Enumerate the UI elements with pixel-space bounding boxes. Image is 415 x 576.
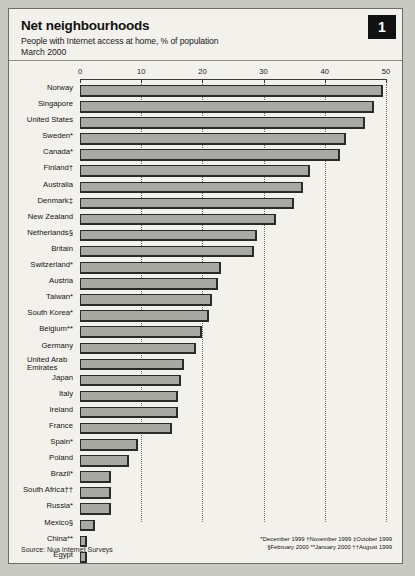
bar-row: Austria	[80, 277, 386, 293]
bar-row: Canada*	[80, 148, 386, 164]
bar-row: Mexico§	[80, 519, 386, 535]
bar-category-label: Sweden*	[42, 132, 73, 140]
bar-row: South Korea*	[80, 309, 386, 325]
bar-category-label: South Korea*	[27, 309, 73, 317]
x-axis-tick-label: 0	[78, 67, 82, 76]
bar-category-label: Poland	[49, 454, 73, 462]
x-axis-tick-label: 30	[259, 67, 267, 76]
bar	[80, 262, 221, 274]
bar-category-label: Australia	[43, 181, 73, 189]
bar-row: Japan	[80, 374, 386, 390]
bar-category-label: Russia*	[47, 502, 74, 510]
bar-row: New Zealand	[80, 213, 386, 229]
bar-category-label: Norway	[47, 84, 73, 92]
bar-row: South Africa††	[80, 486, 386, 502]
bar-category-label: France	[49, 422, 73, 430]
bar	[80, 278, 218, 290]
bar-row: United States	[80, 116, 386, 132]
bar	[80, 375, 181, 387]
x-axis-tick-label: 20	[198, 67, 206, 76]
x-axis-tick	[386, 79, 387, 83]
bar	[80, 214, 276, 226]
bar-row: United Arab Emirates	[80, 358, 386, 374]
bar-list: NorwaySingaporeUnited StatesSweden*Canad…	[80, 84, 386, 564]
chart-subtitle: People with Internet access at home, % o…	[21, 36, 218, 46]
x-axis-tick-label: 10	[137, 67, 145, 76]
bar-category-label: New Zealand	[28, 213, 73, 221]
bar-category-label: Canada*	[43, 148, 73, 156]
bar-category-label: Switzerland*	[30, 261, 73, 269]
bar-category-label: Taiwan*	[46, 293, 73, 301]
x-axis-tick	[325, 79, 326, 83]
bar-category-label: Mexico§	[44, 519, 73, 527]
bar	[80, 520, 95, 532]
bar-row: Netherlands§	[80, 229, 386, 245]
bar-category-label: Britain	[51, 245, 73, 253]
bar	[80, 391, 178, 403]
bar-category-label: Italy	[59, 390, 73, 398]
bar-category-label: Netherlands§	[27, 229, 73, 237]
bar	[80, 117, 365, 129]
gridline	[386, 84, 387, 522]
bar	[80, 310, 209, 322]
bar	[80, 487, 111, 499]
bar-row: Australia	[80, 181, 386, 197]
bar-category-label: Japan	[52, 374, 73, 382]
bar	[80, 101, 374, 113]
bar-category-label: Brazil*	[51, 470, 73, 478]
bar-category-label: Ireland	[49, 406, 73, 414]
figure-number-badge: 1	[368, 15, 396, 39]
bar	[80, 552, 87, 564]
bar-row: Denmark‡	[80, 197, 386, 213]
bar-row: Italy	[80, 390, 386, 406]
bar-category-label: Denmark‡	[38, 197, 73, 205]
bar	[80, 326, 202, 338]
header-divider	[9, 60, 402, 61]
bar-category-label: South Africa††	[23, 486, 73, 494]
bar-row: Spain*	[80, 438, 386, 454]
bar	[80, 165, 310, 177]
bar	[80, 503, 111, 515]
bar-row: Russia*	[80, 502, 386, 518]
bar	[80, 198, 294, 210]
bar	[80, 343, 196, 355]
bar-category-label: Spain*	[50, 438, 73, 446]
bar	[80, 471, 111, 483]
bar-row: Brazil*	[80, 470, 386, 486]
bar-row: Sweden*	[80, 132, 386, 148]
x-axis-tick	[141, 79, 142, 83]
bar-row: Egypt	[80, 551, 386, 564]
bar-row: Ireland	[80, 406, 386, 422]
bar-row: Taiwan*	[80, 293, 386, 309]
bar-row: Finland†	[80, 164, 386, 180]
bar	[80, 455, 129, 467]
bar-category-label: Austria	[49, 277, 73, 285]
bar-row: France	[80, 422, 386, 438]
bar	[80, 246, 254, 258]
bar-category-label: Belgium**	[39, 325, 73, 333]
footnotes: *December 1999 †November 1999 ‡October 1…	[260, 536, 392, 551]
bar-category-label: Germany	[41, 342, 73, 350]
x-axis-line	[80, 79, 386, 80]
bar-category-label: Finland†	[44, 164, 74, 172]
bar	[80, 182, 303, 194]
chart-page: 1 Net neighbourhoods People with Interne…	[8, 8, 403, 564]
bar-category-label: United States	[27, 116, 73, 124]
figure-number: 1	[378, 19, 386, 35]
bar	[80, 423, 172, 435]
footnote-line-1: *December 1999 †November 1999 ‡October 1…	[260, 536, 392, 543]
x-axis-tick	[80, 79, 81, 83]
bar	[80, 407, 178, 419]
bar-row: Poland	[80, 454, 386, 470]
bar	[80, 230, 257, 242]
source-note: Source: Nua Internet Surveys	[21, 546, 113, 553]
chart-period: March 2000	[21, 47, 66, 57]
bar-row: Germany	[80, 342, 386, 358]
x-axis-tick	[264, 79, 265, 83]
bar	[80, 359, 184, 371]
bar	[80, 133, 346, 145]
bar	[80, 439, 138, 451]
bar-row: Norway	[80, 84, 386, 100]
bar	[80, 294, 212, 306]
footnote-line-2: §February 2000 **January 2000 ††August 1…	[260, 544, 392, 551]
